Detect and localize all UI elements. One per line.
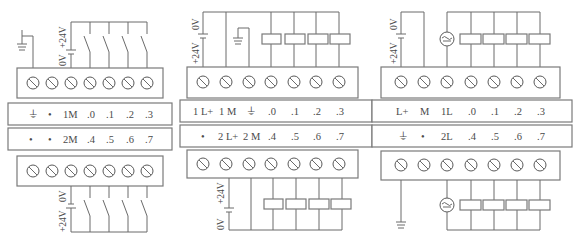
right-top-wiring: +24V 0V	[389, 12, 550, 67]
svg-text:•: •	[201, 131, 205, 142]
svg-text:.5: .5	[491, 131, 499, 142]
svg-text:.6: .6	[126, 134, 134, 145]
svg-text:2 L+: 2 L+	[218, 131, 238, 142]
right-panel: +24V 0V	[372, 12, 572, 230]
svg-text:1 M: 1 M	[219, 106, 237, 117]
load-icon	[309, 199, 329, 209]
load-icon	[285, 34, 305, 44]
right-bottom-wiring	[396, 180, 550, 230]
svg-text:L+: L+	[396, 106, 408, 117]
load-icon	[308, 34, 328, 44]
left-panel: +24V 0V	[8, 22, 172, 232]
load-icon	[529, 200, 550, 210]
ground-icon	[17, 30, 33, 68]
svg-text:.0: .0	[268, 106, 276, 117]
svg-text:1 L+: 1 L+	[193, 106, 213, 117]
supply-zero-label: 0V	[389, 18, 399, 30]
load-icon	[460, 34, 481, 44]
svg-text:•: •	[421, 131, 425, 142]
supply-zero-label: 0V	[191, 18, 201, 30]
svg-text:2 M: 2 M	[243, 131, 261, 142]
svg-text:.7: .7	[336, 131, 344, 142]
load-icon	[262, 34, 281, 44]
svg-text:2M: 2M	[63, 134, 78, 145]
svg-text:⏚: ⏚	[246, 106, 256, 117]
load-icon	[483, 34, 504, 44]
svg-text:.6: .6	[514, 131, 522, 142]
load-icon	[264, 199, 283, 209]
svg-text:.4: .4	[468, 131, 477, 142]
middle-panel: +24V 0V	[180, 12, 372, 230]
supply-zero-label: 0V	[58, 190, 68, 202]
svg-text:.2: .2	[313, 106, 321, 117]
load-icon	[506, 200, 527, 210]
ground-icon	[233, 28, 249, 67]
svg-text:⏚: ⏚	[28, 109, 38, 120]
svg-text:M: M	[420, 106, 430, 117]
svg-text:1L: 1L	[441, 106, 453, 117]
left-top-wiring: +24V 0V	[17, 22, 147, 68]
switch-icon	[141, 186, 147, 232]
svg-text:.7: .7	[145, 134, 153, 145]
svg-text:•: •	[29, 134, 33, 145]
supply-plus-label: +24V	[389, 42, 399, 64]
svg-text:1M: 1M	[63, 109, 78, 120]
switch-icon	[84, 22, 90, 68]
supply-plus-label: +24V	[216, 182, 226, 204]
svg-text:.0: .0	[87, 109, 95, 120]
wiring-diagram: +24V 0V	[0, 0, 578, 240]
supply-plus-label: +24V	[58, 26, 68, 48]
load-icon	[330, 34, 350, 44]
svg-text:.3: .3	[537, 106, 545, 117]
svg-text:.1: .1	[291, 106, 299, 117]
svg-text:.4: .4	[268, 131, 277, 142]
middle-top-wiring: +24V 0V	[191, 12, 350, 67]
svg-text:.4: .4	[87, 134, 96, 145]
switch-icon	[84, 186, 90, 232]
load-icon	[331, 199, 351, 209]
switch-icon	[103, 22, 109, 68]
svg-text:.3: .3	[145, 109, 153, 120]
supply-zero-label: 0V	[58, 54, 68, 66]
supply-zero-label: 0V	[216, 218, 226, 230]
middle-bottom-wiring: +24V 0V	[216, 178, 351, 230]
svg-text:•: •	[48, 109, 52, 120]
svg-text:.7: .7	[537, 131, 545, 142]
supply-plus-label: +24V	[191, 42, 201, 64]
svg-text:.1: .1	[106, 109, 114, 120]
svg-text:.6: .6	[313, 131, 321, 142]
ground-icon	[396, 180, 406, 228]
load-icon	[529, 34, 550, 44]
svg-text:.2: .2	[126, 109, 134, 120]
load-icon	[286, 199, 306, 209]
svg-text:.5: .5	[291, 131, 299, 142]
svg-text:.5: .5	[106, 134, 114, 145]
switch-icon	[122, 186, 128, 232]
ac-source-icon	[440, 198, 454, 212]
svg-text:.1: .1	[491, 106, 499, 117]
svg-text:.3: .3	[336, 106, 344, 117]
svg-text:2L: 2L	[441, 131, 453, 142]
left-bottom-wiring: 0V +24V	[58, 186, 147, 232]
switch-icon	[141, 22, 147, 68]
load-icon	[483, 200, 504, 210]
load-icon	[460, 200, 481, 210]
supply-plus-label: +24V	[58, 210, 68, 232]
load-icon	[506, 34, 527, 44]
svg-text:.0: .0	[468, 106, 476, 117]
switch-icon	[122, 22, 128, 68]
svg-text:•: •	[48, 134, 52, 145]
ac-source-icon	[440, 32, 454, 46]
switch-icon	[103, 186, 109, 232]
svg-text:⏚: ⏚	[398, 131, 408, 142]
svg-text:.2: .2	[514, 106, 522, 117]
